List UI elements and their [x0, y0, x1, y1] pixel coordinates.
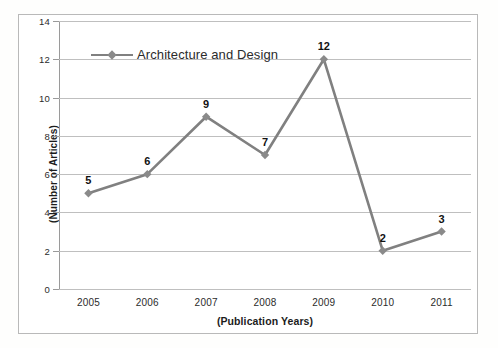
- y-axis-label-10: 10: [39, 92, 50, 103]
- data-label-2011: 3: [439, 213, 445, 225]
- data-point-marker-2005: [84, 189, 92, 197]
- chart-frame: (Number of Articles) (Publication Years)…: [18, 14, 478, 334]
- x-axis-label-2006: 2006: [136, 297, 159, 308]
- page-background: (Number of Articles) (Publication Years)…: [0, 0, 498, 348]
- legend-label-architecture-and-design: Architecture and Design: [137, 47, 278, 62]
- x-axis-label-2011: 2011: [430, 297, 452, 308]
- data-label-2008: 7: [262, 136, 268, 148]
- y-axis-label-8: 8: [45, 130, 50, 141]
- data-point-marker-2011: [437, 227, 445, 235]
- x-axis-label-2010: 2010: [371, 297, 394, 308]
- y-axis-label-2: 2: [45, 245, 50, 256]
- legend-marker-icon: [89, 48, 135, 62]
- data-label-2009: 12: [318, 40, 330, 52]
- x-axis-label-2009: 2009: [312, 297, 335, 308]
- x-axis-label-2005: 2005: [77, 297, 100, 308]
- x-axis-label-2007: 2007: [195, 297, 218, 308]
- y-tick-0: [53, 289, 59, 290]
- data-label-2006: 6: [144, 155, 150, 167]
- y-axis-label-14: 14: [39, 16, 50, 27]
- chart-legend: Architecture and Design: [89, 47, 278, 62]
- x-axis-title: (Publication Years): [59, 315, 471, 327]
- x-axis-label-2008: 2008: [253, 297, 276, 308]
- data-label-2010: 2: [380, 232, 386, 244]
- y-axis-label-4: 4: [45, 207, 50, 218]
- data-point-marker-2010: [379, 247, 387, 255]
- data-label-2007: 9: [203, 98, 209, 110]
- y-axis-label-6: 6: [45, 169, 50, 180]
- gridline-0: [59, 289, 471, 290]
- y-axis-label-0: 0: [45, 284, 50, 295]
- y-axis-label-12: 12: [39, 54, 50, 65]
- data-label-2005: 5: [85, 174, 91, 186]
